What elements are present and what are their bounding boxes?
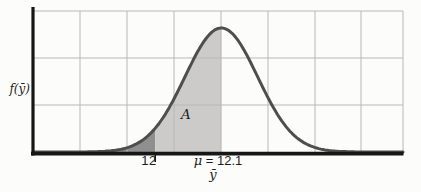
shaded-region-a — [155, 28, 221, 152]
distribution-figure: f(ȳ) 12 μ = 12.1 ȳ A — [0, 0, 421, 192]
mu-symbol: μ — [194, 153, 202, 168]
region-a-label: A — [181, 106, 191, 122]
x-tick-label-12: 12 — [134, 153, 164, 168]
x-axis-label: ȳ — [198, 167, 228, 182]
mean-label: μ = 12.1 — [180, 153, 256, 168]
shaded-left-tail-region — [33, 128, 155, 152]
y-axis-label: f(ȳ) — [0, 82, 30, 96]
mean-value: = 12.1 — [206, 153, 243, 168]
